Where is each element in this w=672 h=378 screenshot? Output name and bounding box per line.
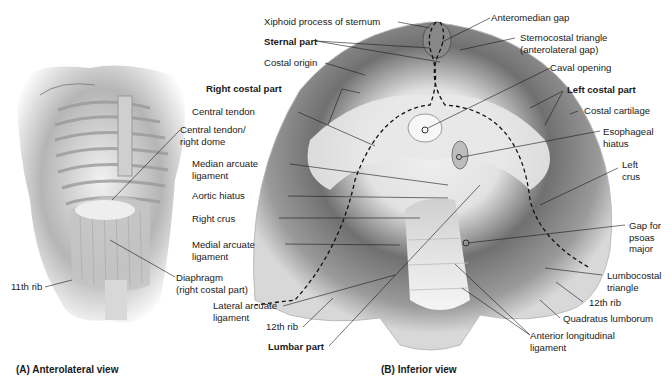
label-11th-rib: 11th rib <box>11 281 42 293</box>
label-lumbocostal-triangle: Lumbocostal triangle <box>607 270 661 293</box>
label-medial-arcuate-ligament: Medial arcuate ligament <box>192 239 255 262</box>
label-anterior-longitudinal-ligament: Anterior longitudinal ligament <box>530 330 615 353</box>
caption-inferior-view: (B) Inferior view <box>381 364 457 375</box>
label-quadratus-lumborum: Quadratus lumborum <box>563 313 653 325</box>
label-caval-opening: Caval opening <box>550 62 611 74</box>
label-left-costal-part: Left costal part <box>567 84 636 96</box>
label-right-costal-part: Right costal part <box>206 83 282 95</box>
label-sternocostal-triangle: Sternocostal triangle (anterolateral gap… <box>520 32 607 55</box>
diaphragm-figure: Central tendon/ right dome Diaphragm (ri… <box>0 0 672 378</box>
label-central-tendon-right-dome: Central tendon/ right dome <box>180 124 246 147</box>
label-12th-rib-left: 12th rib <box>266 321 298 333</box>
label-sternal-part: Sternal part <box>264 36 317 48</box>
label-median-arcuate-ligament: Median arcuate ligament <box>192 158 258 181</box>
label-lateral-arcuate-ligament: Lateral arcuate ligament <box>213 300 277 323</box>
label-lumbar-part: Lumbar part <box>268 341 324 353</box>
label-left-crus: Left crus <box>622 159 640 182</box>
label-costal-origin: Costal origin <box>264 57 317 69</box>
label-gap-for-psoas-major: Gap for psoas major <box>629 220 661 255</box>
label-12th-rib-right: 12th rib <box>589 297 621 309</box>
label-xiphoid-process: Xiphoid process of sternum <box>264 16 380 28</box>
label-esophageal-hiatus: Esophageal hiatus <box>603 126 654 149</box>
caption-anterolateral-view: (A) Anterolateral view <box>16 364 118 375</box>
panel-a-artwork <box>18 66 185 323</box>
label-diaphragm-right-costal-part: Diaphragm (right costal part) <box>176 272 248 295</box>
label-aortic-hiatus: Aortic hiatus <box>192 190 245 202</box>
label-anteromedian-gap: Anteromedian gap <box>491 12 569 24</box>
label-costal-cartilage: Costal cartilage <box>584 105 650 117</box>
label-central-tendon: Central tendon <box>192 106 255 118</box>
label-right-crus: Right crus <box>192 213 235 225</box>
